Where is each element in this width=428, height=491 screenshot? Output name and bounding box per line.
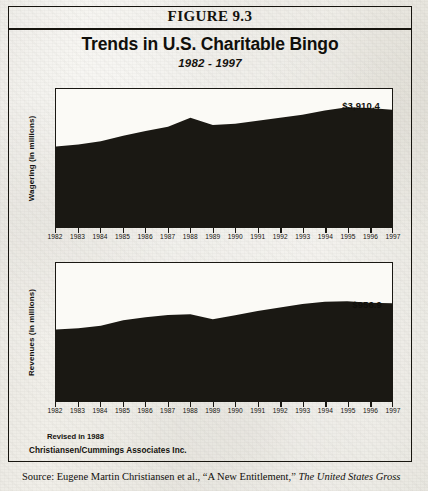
figure-subtitle-year-range: 1982 - 1997 xyxy=(9,57,411,69)
source-citation: Source: Eugene Martin Christiansen et al… xyxy=(22,471,418,482)
x-axis-tick-label: 1989 xyxy=(205,233,220,240)
citation-lead-text: Source: Eugene Martin Christiansen et al… xyxy=(22,471,298,482)
chart-wagering-plot-area: $3,910.4 xyxy=(55,88,393,228)
x-axis-tick-label: 1995 xyxy=(340,233,355,240)
x-axis-tick-label: 1983 xyxy=(70,233,85,240)
chart-wagering-y-axis-label: Wagering (in millions) xyxy=(25,88,39,228)
x-axis-tick-label: 1992 xyxy=(273,407,288,414)
x-axis-tick-label: 1990 xyxy=(228,407,243,414)
citation-publication-title: The United States Gross xyxy=(298,471,400,482)
chart-revenues-end-value-label: $956.9 xyxy=(352,299,382,310)
x-axis-tick-label: 1986 xyxy=(138,407,153,414)
x-axis-tick-label: 1983 xyxy=(70,407,85,414)
x-axis-tick-label: 1989 xyxy=(205,407,220,414)
x-axis-tick-label: 1982 xyxy=(47,407,62,414)
x-axis-tick-label: 1982 xyxy=(47,233,62,240)
footnote-source-organization: Christiansen/Cummings Associates Inc. xyxy=(29,446,187,455)
x-axis-tick-label: 1985 xyxy=(115,233,130,240)
x-axis-tick-label: 1984 xyxy=(93,233,108,240)
x-axis-tick-label: 1988 xyxy=(183,233,198,240)
x-axis-tick-label: 1985 xyxy=(115,407,130,414)
x-axis-tick-label: 1987 xyxy=(160,233,175,240)
x-axis-tick-label: 1994 xyxy=(318,233,333,240)
chart-wagering-end-value-label: $3,910.4 xyxy=(342,100,380,111)
header-divider-rule xyxy=(9,28,412,30)
x-axis-tick-label: 1987 xyxy=(160,407,175,414)
x-axis-tick-label: 1992 xyxy=(273,233,288,240)
x-axis-tick-label: 1984 xyxy=(93,407,108,414)
x-axis-tick-label: 1996 xyxy=(363,233,378,240)
x-axis-tick-label: 1993 xyxy=(295,407,310,414)
chart-revenues-y-axis-label: Revenues (in millions) xyxy=(25,262,39,402)
chart-wagering: Wagering (in millions) $3,910.4 19821983… xyxy=(26,88,396,248)
x-axis-tick-label: 1991 xyxy=(250,233,265,240)
footnote-revised: Revised in 1988 xyxy=(47,432,104,441)
x-axis-tick-label: 1993 xyxy=(295,233,310,240)
x-axis-tick-label: 1986 xyxy=(138,233,153,240)
x-axis-tick-label: 1996 xyxy=(363,407,378,414)
chart-revenues-plot-area: $956.9 xyxy=(55,262,393,402)
x-axis-tick-label: 1991 xyxy=(250,407,265,414)
x-axis-tick-label: 1994 xyxy=(318,407,333,414)
x-axis-tick-label: 1997 xyxy=(385,407,400,414)
chart-revenues: Revenues (in millions) $956.9 1982198319… xyxy=(26,262,396,422)
x-axis-tick-label: 1988 xyxy=(183,407,198,414)
scanned-page: FIGURE 9.3 Trends in U.S. Charitable Bin… xyxy=(0,0,428,491)
x-axis-tick-label: 1990 xyxy=(228,233,243,240)
figure-number-heading: FIGURE 9.3 xyxy=(9,8,411,25)
x-axis-tick-label: 1995 xyxy=(340,407,355,414)
chart-wagering-x-axis-labels: 1982198319841985198619871988198919901991… xyxy=(55,233,393,245)
chart-revenues-x-axis-labels: 1982198319841985198619871988198919901991… xyxy=(55,407,393,419)
chart-revenues-area-series xyxy=(56,263,392,401)
figure-title: Trends in U.S. Charitable Bingo xyxy=(9,34,411,55)
x-axis-tick-label: 1997 xyxy=(385,233,400,240)
